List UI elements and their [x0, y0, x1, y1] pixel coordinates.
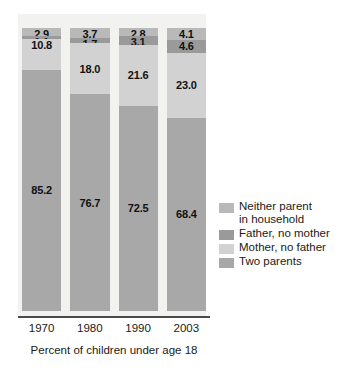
segment-value-label: 4.1: [167, 29, 206, 40]
legend-item-two-parents: Two parents: [219, 255, 339, 268]
legend-swatch-icon: [219, 230, 234, 240]
segment-value-label: 85.2: [22, 185, 61, 196]
legend-swatch-icon: [219, 244, 234, 254]
bar-column-1970: 2.9 1.1 10.8 85.2: [22, 28, 61, 311]
legend-label: Mother, no father: [239, 241, 326, 254]
x-tick-1990: 1990: [119, 322, 158, 334]
x-tick-1970: 1970: [22, 322, 61, 334]
segment-father-no-mother-1990: 3.1: [119, 36, 158, 45]
segment-mother-no-father-2003: 23.0: [167, 53, 206, 118]
segment-value-label: 68.4: [167, 209, 206, 220]
segment-neither-parent-1980: 3.7: [70, 28, 109, 38]
legend-item-father-no-mother: Father, no mother: [219, 227, 339, 240]
segment-neither-parent-2003: 4.1: [167, 28, 206, 40]
stacked-bar-chart: 2.9 1.1 10.8 85.2 3.7 1.7 18.0: [0, 0, 341, 371]
segment-value-label: 10.8: [22, 40, 61, 51]
x-axis-line: [18, 316, 210, 318]
segment-neither-parent-1970: 2.9: [22, 28, 61, 36]
segment-value-label: 21.6: [119, 70, 158, 81]
x-axis-tick-labels: 1970 1980 1990 2003: [18, 322, 206, 334]
legend-item-neither-parent: Neither parent in household: [219, 200, 339, 226]
legend-label: Neither parent in household: [239, 200, 312, 226]
segment-mother-no-father-1980: 18.0: [70, 43, 109, 94]
segment-two-parents-1980: 76.7: [70, 94, 109, 311]
bar-column-2003: 4.1 4.6 23.0 68.4: [167, 28, 206, 311]
x-tick-1980: 1980: [70, 322, 109, 334]
segment-value-label: 4.6: [167, 41, 206, 52]
chart-caption: Percent of children under age 18: [14, 344, 214, 356]
segment-value-label: 18.0: [70, 63, 109, 74]
legend-swatch-icon: [219, 258, 234, 268]
segment-mother-no-father-1970: 10.8: [22, 39, 61, 70]
segment-value-label: 23.0: [167, 80, 206, 91]
segment-two-parents-2003: 68.4: [167, 118, 206, 311]
legend-label: Father, no mother: [239, 227, 330, 240]
segment-neither-parent-1990: 2.8: [119, 28, 158, 36]
legend-swatch-icon: [219, 203, 234, 213]
segment-father-no-mother-2003: 4.6: [167, 40, 206, 53]
bars-container: 2.9 1.1 10.8 85.2 3.7 1.7 18.0: [18, 28, 206, 311]
segment-mother-no-father-1990: 21.6: [119, 45, 158, 106]
chart-legend: Neither parent in household Father, no m…: [219, 200, 339, 269]
bar-column-1990: 2.8 3.1 21.6 72.5: [119, 28, 158, 311]
segment-two-parents-1970: 85.2: [22, 70, 61, 311]
segment-two-parents-1990: 72.5: [119, 106, 158, 311]
bar-column-1980: 3.7 1.7 18.0 76.7: [70, 28, 109, 311]
legend-item-mother-no-father: Mother, no father: [219, 241, 339, 254]
legend-label: Two parents: [239, 255, 302, 268]
segment-value-label: 76.7: [70, 197, 109, 208]
x-tick-2003: 2003: [167, 322, 206, 334]
segment-value-label: 72.5: [119, 203, 158, 214]
